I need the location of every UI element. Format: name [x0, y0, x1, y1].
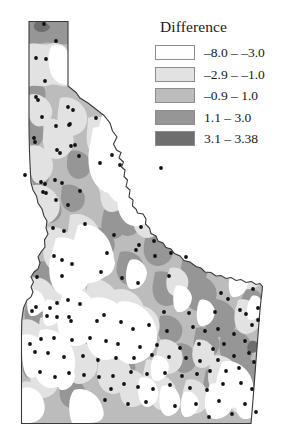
- legend-item: –2.9 – –1.0: [155, 64, 277, 86]
- legend-label-2: –2.9 – –1.0: [204, 68, 265, 82]
- legend-item: 3.1 – 3.38: [155, 128, 277, 150]
- legend-swatch-4: [155, 110, 195, 125]
- map-legend: Difference –8.0 – –3.0 –2.9 – –1.0 –0.9 …: [155, 18, 277, 150]
- legend-title: Difference: [160, 18, 277, 36]
- legend-label-5: 3.1 – 3.38: [204, 132, 258, 146]
- legend-swatch-3: [155, 88, 195, 103]
- legend-label-3: –0.9 – 1.0: [204, 89, 258, 103]
- legend-label-1: –8.0 – –3.0: [204, 46, 265, 60]
- legend-label-4: 1.1 – 3.0: [204, 111, 251, 125]
- legend-item: 1.1 – 3.0: [155, 107, 277, 129]
- legend-item: –0.9 – 1.0: [155, 85, 277, 107]
- legend-swatch-1: [155, 45, 195, 60]
- legend-item: –8.0 – –3.0: [155, 42, 277, 64]
- legend-swatch-2: [155, 67, 195, 82]
- figure-panel: Difference –8.0 – –3.0 –2.9 – –1.0 –0.9 …: [0, 0, 282, 443]
- legend-swatch-5: [155, 131, 195, 146]
